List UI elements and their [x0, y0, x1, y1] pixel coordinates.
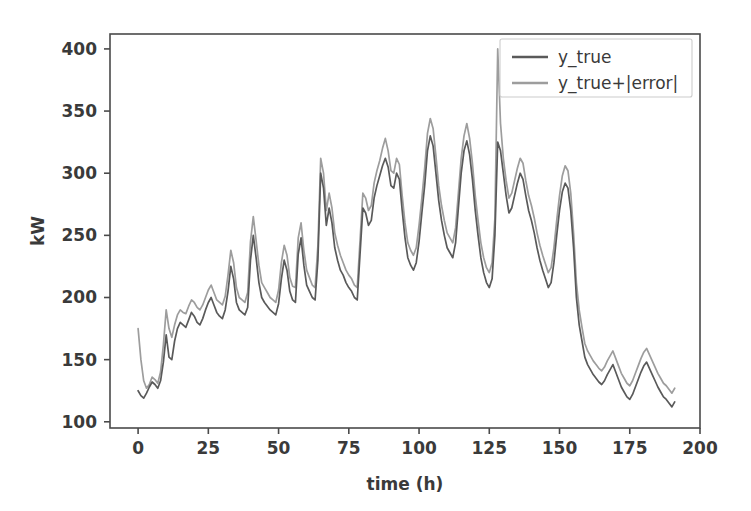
x-tick-label: 100 — [401, 438, 437, 458]
y-tick-label: 350 — [62, 101, 98, 121]
x-tick-label: 150 — [542, 438, 578, 458]
y-tick-label: 250 — [62, 225, 98, 245]
y-tick-label: 300 — [62, 163, 98, 183]
chart-figure: 0255075100125150175200100150200250300350… — [0, 0, 751, 511]
line-chart: 0255075100125150175200100150200250300350… — [0, 0, 751, 511]
y-axis-title: kW — [28, 216, 48, 246]
chart-legend: y_truey_true+|error| — [500, 39, 692, 97]
x-tick-label: 125 — [472, 438, 508, 458]
y-tick-label: 150 — [62, 350, 98, 370]
x-tick-label: 75 — [337, 438, 361, 458]
x-tick-label: 25 — [196, 438, 220, 458]
legend-label-1: y_true — [558, 47, 611, 68]
x-tick-label: 50 — [267, 438, 291, 458]
x-tick-label: 175 — [612, 438, 648, 458]
x-axis-title: time (h) — [367, 474, 444, 494]
y-tick-label: 100 — [62, 412, 98, 432]
legend-label-2: y_true+|error| — [558, 73, 678, 94]
x-tick-label: 200 — [682, 438, 718, 458]
y-tick-label: 400 — [62, 39, 98, 59]
x-tick-label: 0 — [132, 438, 144, 458]
y-tick-label: 200 — [62, 287, 98, 307]
